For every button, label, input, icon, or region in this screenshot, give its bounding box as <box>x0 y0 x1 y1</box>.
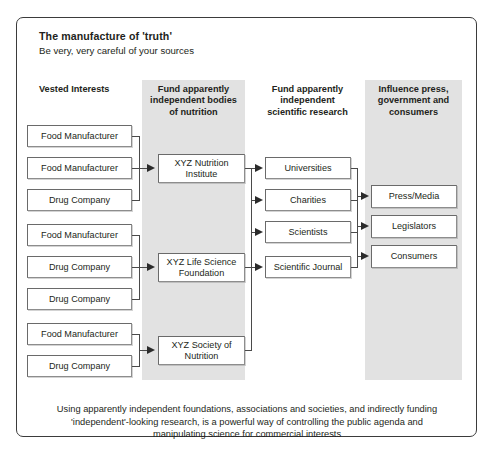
node-vested-interest[interactable]: Food Manufacturer <box>27 157 132 179</box>
column-header-line: consumers <box>365 107 462 118</box>
column-header-line: scientific research <box>256 107 359 118</box>
footer-line: Using apparently independent foundations… <box>43 403 451 416</box>
node-label: Drug Company <box>49 294 110 305</box>
node-vested-interest[interactable]: Drug Company <box>27 355 132 377</box>
arrow-head <box>255 196 263 204</box>
node-vested-interest[interactable]: Food Manufacturer <box>27 125 132 147</box>
arrow-head <box>147 263 155 271</box>
column-header-fund-bodies: Fund apparently independent bodies of nu… <box>142 84 245 118</box>
column-header-line: independent <box>256 95 359 106</box>
diagram-card: The manufacture of 'truth' Be very, very… <box>16 17 477 437</box>
node-research[interactable]: Scientists <box>265 221 351 243</box>
node-label: Food Manufacturer <box>41 230 118 241</box>
node-influence[interactable]: Consumers <box>371 245 457 268</box>
connector-stub <box>245 350 252 351</box>
node-research[interactable]: Scientific Journal <box>265 256 351 278</box>
column-header-influence: Influence press, government and consumer… <box>365 84 462 118</box>
node-label: Food Manufacturer <box>41 163 118 174</box>
node-label: Drug Company <box>49 262 110 273</box>
column-header-vested-interests: Vested Interests <box>39 84 144 95</box>
node-label: Consumers <box>391 251 438 262</box>
column-header-line: independent bodies <box>142 95 245 106</box>
connector-spine <box>251 168 252 350</box>
column-header-line: Influence press, <box>365 84 462 95</box>
node-label-line: Institute <box>186 169 218 180</box>
node-influence[interactable]: Press/Media <box>371 185 457 208</box>
arrow-head <box>255 263 263 271</box>
node-label-line: XYZ Nutrition <box>174 158 228 169</box>
footer-caption: Using apparently independent foundations… <box>43 403 451 441</box>
arrow-head <box>361 192 369 200</box>
diagram-page: The manufacture of 'truth' Be very, very… <box>0 0 494 450</box>
node-research[interactable]: Charities <box>265 189 351 211</box>
footer-line: manipulating science for commercial inte… <box>43 428 451 441</box>
node-research[interactable]: Universities <box>265 157 351 179</box>
arrow-head <box>361 222 369 230</box>
node-label: Food Manufacturer <box>41 131 118 142</box>
connector-stub <box>351 267 358 268</box>
node-label: Scientists <box>289 227 328 238</box>
page-title: The manufacture of 'truth' <box>39 30 172 42</box>
node-influence[interactable]: Legislators <box>371 215 457 238</box>
node-label-line: XYZ Society of <box>171 340 231 351</box>
column-header-line: of nutrition <box>142 107 245 118</box>
node-label-line: XYZ Life Science <box>167 257 237 268</box>
column-header-fund-research: Fund apparently independent scientific r… <box>256 84 359 118</box>
node-label-line: Foundation <box>179 268 225 279</box>
node-vested-interest[interactable]: Drug Company <box>27 288 132 310</box>
node-body[interactable]: XYZ Life Science Foundation <box>158 253 245 282</box>
node-vested-interest[interactable]: Food Manufacturer <box>27 224 132 246</box>
node-label: Food Manufacturer <box>41 329 118 340</box>
connector-stub <box>132 299 140 300</box>
page-subtitle: Be very, very careful of your sources <box>39 45 194 56</box>
node-label: Universities <box>285 163 332 174</box>
connector-spine <box>357 168 358 267</box>
connector-stub <box>132 366 140 367</box>
node-body[interactable]: XYZ Society of Nutrition <box>158 336 245 365</box>
column-header-line: Fund apparently <box>142 84 245 95</box>
column-header-line: Vested Interests <box>39 84 144 95</box>
node-label: Drug Company <box>49 195 110 206</box>
node-label: Drug Company <box>49 361 110 372</box>
node-label-line: Nutrition <box>185 351 219 362</box>
node-label: Charities <box>290 195 326 206</box>
column-header-line: Fund apparently <box>256 84 359 95</box>
node-label: Scientific Journal <box>274 262 343 273</box>
footer-line: 'independent'-looking research, is a pow… <box>43 416 451 429</box>
node-label: Legislators <box>392 221 436 232</box>
arrow-head <box>361 252 369 260</box>
column-header-line: government and <box>365 95 462 106</box>
arrow-head <box>147 164 155 172</box>
node-label: Press/Media <box>389 191 440 202</box>
arrow-head <box>255 228 263 236</box>
arrow-head <box>147 346 155 354</box>
node-body[interactable]: XYZ Nutrition Institute <box>158 154 245 183</box>
node-vested-interest[interactable]: Drug Company <box>27 256 132 278</box>
node-vested-interest[interactable]: Food Manufacturer <box>27 323 132 345</box>
node-vested-interest[interactable]: Drug Company <box>27 189 132 211</box>
panel-fund-bodies <box>142 80 245 380</box>
arrow-head <box>255 164 263 172</box>
connector-stub <box>132 200 140 201</box>
